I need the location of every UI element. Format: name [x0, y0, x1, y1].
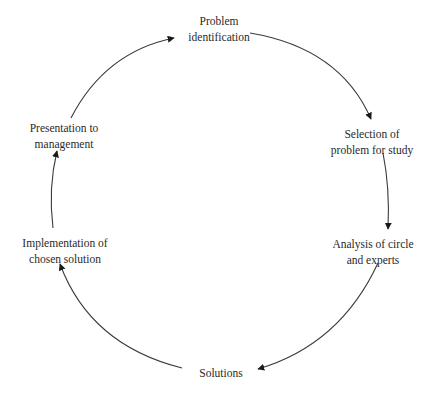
- node-implementation: Implementation of chosen solution: [22, 235, 107, 267]
- arrow-implementation-to-presentation: [51, 151, 57, 228]
- arrow-analysis-to-solutions: [258, 263, 378, 369]
- node-label-line: problem for study: [331, 142, 413, 158]
- node-label-line: Solutions: [199, 365, 242, 381]
- node-label-line: Implementation of: [22, 235, 107, 251]
- node-label-line: Problem: [188, 13, 249, 29]
- arrow-selection-to-analysis: [383, 153, 388, 229]
- node-problem-identification: Problem identification: [188, 13, 249, 45]
- node-label-line: chosen solution: [22, 251, 107, 267]
- node-label-line: Presentation to: [30, 120, 99, 136]
- diagram-arrows: [0, 0, 438, 395]
- arrow-problem-to-selection: [250, 33, 371, 119]
- node-label-line: Selection of: [331, 126, 413, 142]
- node-selection-of-problem: Selection of problem for study: [331, 126, 413, 158]
- node-analysis: Analysis of circle and experts: [332, 236, 413, 268]
- node-label-line: and experts: [332, 252, 413, 268]
- arrow-solutions-to-implementation: [60, 264, 182, 368]
- node-label-line: identification: [188, 29, 249, 45]
- node-presentation: Presentation to management: [30, 120, 99, 152]
- node-label-line: management: [30, 136, 99, 152]
- node-solutions: Solutions: [199, 365, 242, 381]
- cycle-diagram: Problem identification Selection of prob…: [0, 0, 438, 395]
- node-label-line: Analysis of circle: [332, 236, 413, 252]
- arrow-presentation-to-problem: [71, 38, 174, 118]
